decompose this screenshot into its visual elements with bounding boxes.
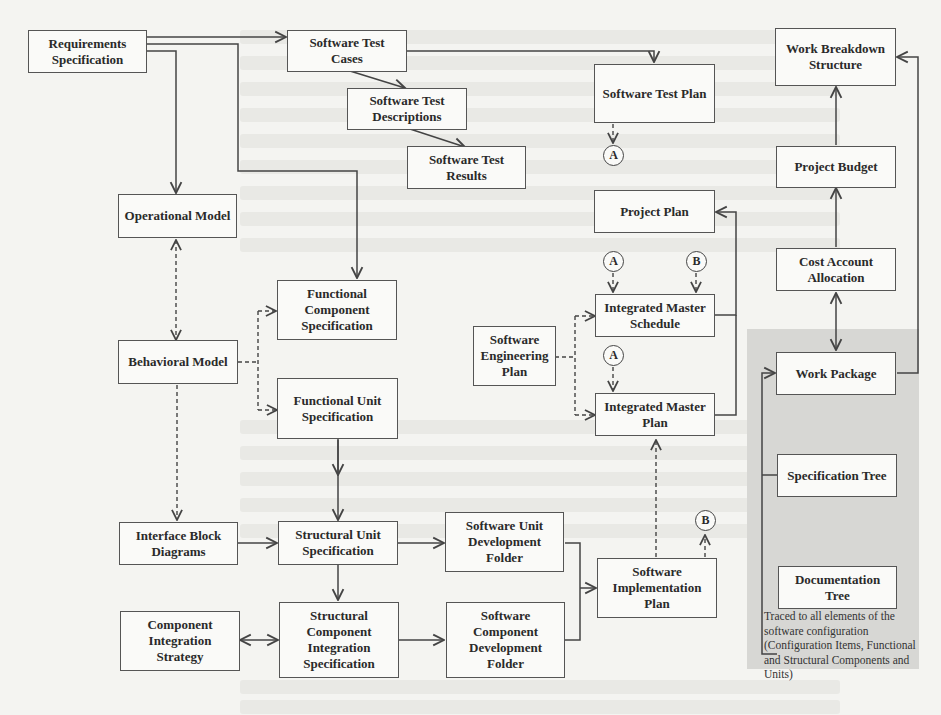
connector-b-implementation: B — [695, 510, 716, 531]
node-software-implementation-plan: Software Implementation Plan — [597, 558, 717, 618]
connector-a-test-plan: A — [603, 145, 624, 166]
node-software-test-cases: Software Test Cases — [287, 30, 407, 72]
connector-a-master-plan: A — [603, 345, 624, 366]
node-operational-model: Operational Model — [118, 194, 237, 238]
node-software-engineering-plan: Software Engineering Plan — [473, 326, 556, 386]
node-software-unit-development-folder: Software Unit Development Folder — [445, 512, 564, 572]
node-work-package: Work Package — [776, 352, 896, 395]
node-integrated-master-plan: Integrated Master Plan — [595, 393, 715, 436]
node-interface-block-diagrams: Interface Block Diagrams — [119, 522, 238, 565]
node-behavioral-model: Behavioral Model — [118, 340, 238, 384]
node-functional-component-specification: Functional Component Specification — [277, 280, 397, 340]
connector-b-schedule: B — [686, 251, 707, 272]
connector-a-schedule: A — [603, 251, 624, 272]
node-software-test-descriptions: Software Test Descriptions — [347, 88, 467, 130]
node-specification-tree: Specification Tree — [777, 454, 897, 497]
shaded-region-note: Traced to all elements of the software c… — [764, 609, 924, 682]
node-structural-unit-specification: Structural Unit Specification — [278, 521, 398, 565]
node-component-integration-strategy: Component Integration Strategy — [120, 611, 240, 671]
node-work-breakdown-structure: Work Breakdown Structure — [775, 28, 896, 86]
node-integrated-master-schedule: Integrated Master Schedule — [595, 294, 715, 337]
node-project-budget: Project Budget — [776, 146, 896, 188]
node-software-test-plan: Software Test Plan — [594, 64, 715, 123]
node-software-component-development-folder: Software Component Development Folder — [446, 602, 565, 678]
node-requirements-specification: Requirements Specification — [28, 30, 147, 73]
node-cost-account-allocation: Cost Account Allocation — [776, 248, 896, 291]
node-software-test-results: Software Test Results — [407, 146, 526, 189]
node-documentation-tree: Documentation Tree — [778, 566, 897, 609]
node-structural-component-integration-specification: Structural Component Integration Specifi… — [279, 602, 399, 678]
node-project-plan: Project Plan — [594, 190, 715, 233]
node-functional-unit-specification: Functional Unit Specification — [277, 378, 398, 439]
